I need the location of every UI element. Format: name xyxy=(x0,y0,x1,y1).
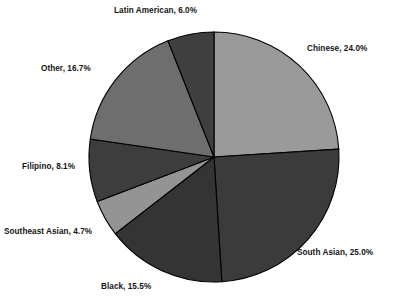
pie-label-chinese: Chinese, 24.0% xyxy=(307,45,367,53)
pie-slices-group xyxy=(89,32,339,282)
pie-label-filipino: Filipino, 8.1% xyxy=(22,163,75,171)
pie-label-latin-american: Latin American, 6.0% xyxy=(114,7,197,15)
pie-chart-figure: Latin American, 6.0% Chinese, 24.0% Sout… xyxy=(0,0,404,305)
pie-label-southeast-asian: Southeast Asian, 4.7% xyxy=(4,228,92,236)
pie-label-south-asian: South Asian, 25.0% xyxy=(297,249,373,257)
pie-label-black: Black, 15.5% xyxy=(101,283,151,291)
pie-slice-south-asian xyxy=(214,149,339,282)
pie-label-other: Other, 16.7% xyxy=(41,65,91,73)
